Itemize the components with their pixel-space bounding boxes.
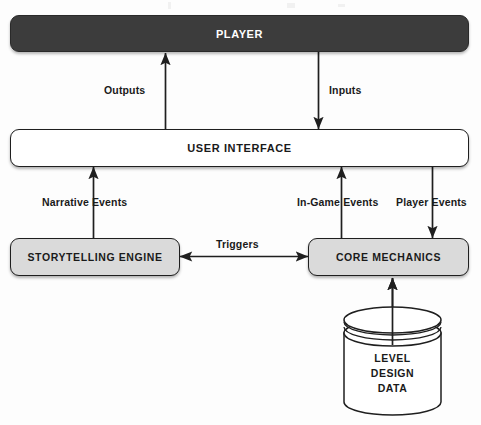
node-player[interactable]: PLAYER — [10, 15, 469, 52]
node-user-interface[interactable]: USER INTERFACE — [10, 129, 469, 167]
edge-label-narrative-events: Narrative Events — [42, 196, 127, 208]
node-storytelling-engine[interactable]: STORYTELLING ENGINE — [10, 238, 180, 276]
edge-label-triggers: Triggers — [216, 238, 259, 250]
edge-label-outputs: Outputs — [104, 84, 145, 96]
edge-label-player-events: Player Events — [396, 196, 467, 208]
node-core-mechanics[interactable]: CORE MECHANICS — [308, 238, 469, 276]
node-core-mechanics-label: CORE MECHANICS — [336, 251, 441, 263]
database-label-line-3: DATA — [344, 381, 441, 396]
node-player-label: PLAYER — [216, 28, 263, 40]
diagram-canvas: PLAYER USER INTERFACE STORYTELLING ENGIN… — [0, 0, 481, 425]
node-storytelling-engine-label: STORYTELLING ENGINE — [27, 251, 162, 263]
edge-label-inputs: Inputs — [329, 84, 361, 96]
database-label-line-1: LEVEL — [344, 351, 441, 366]
database-label-line-2: DESIGN — [344, 366, 441, 381]
edge-label-ingame-events: In-Game Events — [297, 196, 378, 208]
node-database-label: LEVEL DESIGN DATA — [344, 351, 441, 396]
node-user-interface-label: USER INTERFACE — [187, 142, 291, 154]
